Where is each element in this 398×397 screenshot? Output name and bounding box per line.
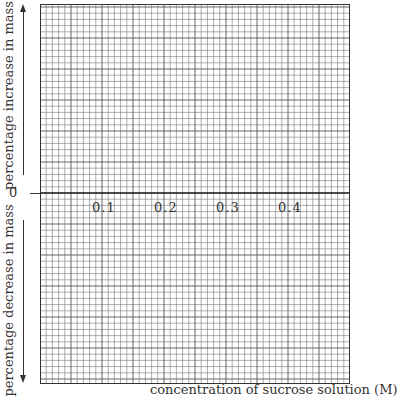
x-tick-0-2: 0.2	[154, 200, 178, 215]
y-axis-label-decrease: percentage decrease in mass	[0, 215, 16, 385]
x-tick-0-1: 0.1	[92, 200, 116, 215]
x-tick-0-3: 0.3	[216, 200, 240, 215]
y-axis-decrease-arrow-line	[23, 220, 24, 375]
y-axis-label-decrease-text: percentage decrease in mass	[1, 204, 16, 396]
x-axis-label: concentration of sucrose solution (M)	[150, 382, 398, 397]
y-axis-label-increase: percentage increase in mass	[0, 10, 16, 180]
arrow-down-icon	[20, 375, 26, 383]
y-zero-label: 0	[9, 185, 17, 200]
y-axis-label-increase-text: percentage increase in mass	[1, 1, 16, 190]
x-tick-0-4: 0.4	[278, 200, 302, 215]
graph-paper-grid	[40, 4, 350, 384]
y-zero-tick	[30, 193, 40, 194]
y-axis-increase-arrow-line	[23, 10, 24, 175]
